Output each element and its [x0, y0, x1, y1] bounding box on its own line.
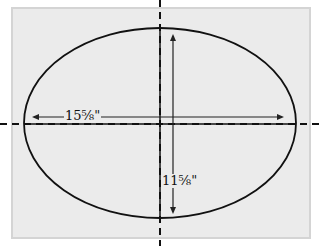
oval-diagram: 15⅝" 11⅝" — [0, 0, 320, 246]
width-label: 15⅝" — [64, 109, 101, 123]
height-label: 11⅝" — [161, 174, 198, 188]
oval-svg — [0, 0, 320, 246]
